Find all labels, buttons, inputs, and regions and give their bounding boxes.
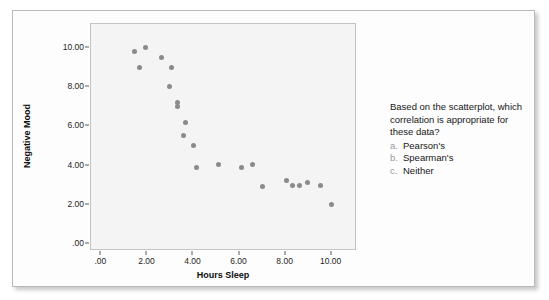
data-point [284, 178, 289, 183]
x-axis-title: Hours Sleep [197, 270, 250, 280]
x-tick-mark [192, 251, 193, 255]
y-tick-label: 6.00 [67, 120, 84, 130]
x-tick-mark [146, 251, 147, 255]
data-point [191, 143, 196, 148]
x-tick-label: 2.00 [138, 256, 155, 266]
y-tick-mark [85, 46, 89, 47]
x-tick-label: 4.00 [184, 256, 201, 266]
x-tick-mark [330, 251, 331, 255]
data-point [216, 162, 221, 167]
data-point [169, 65, 174, 70]
data-point [250, 162, 255, 167]
data-point [132, 49, 137, 54]
option-label: Pearson's [403, 140, 445, 153]
data-point [137, 65, 142, 70]
data-point [290, 183, 295, 188]
data-point [318, 183, 323, 188]
question-text: Based on the scatterplot, which correlat… [390, 101, 530, 139]
y-tick-mark [85, 85, 89, 86]
option-label: Spearman's [403, 152, 453, 165]
answer-options-list: a.Pearson'sb.Spearman'sc.Neither [390, 140, 530, 178]
y-tick-label: 10.00 [63, 42, 84, 52]
question-block: Based on the scatterplot, which correlat… [390, 101, 530, 178]
data-point [297, 183, 302, 188]
data-point [305, 180, 310, 185]
data-point [194, 165, 199, 170]
x-tick-mark [284, 251, 285, 255]
data-point [167, 84, 172, 89]
answer-option[interactable]: a.Pearson's [390, 140, 530, 153]
y-tick-label: 2.00 [67, 199, 84, 209]
answer-option[interactable]: c.Neither [390, 165, 530, 178]
plot-area [90, 23, 356, 250]
y-tick-label: 8.00 [67, 81, 84, 91]
y-tick-mark [85, 125, 89, 126]
x-tick-label: 10.00 [320, 256, 341, 266]
data-point [329, 202, 334, 207]
answer-option[interactable]: b.Spearman's [390, 152, 530, 165]
x-tick-mark [100, 251, 101, 255]
option-letter: a. [390, 140, 403, 153]
y-tick-label: 4.00 [67, 160, 84, 170]
data-point [159, 55, 164, 60]
figure-card: Negative Mood .002.004.006.008.0010.00 .… [12, 10, 535, 287]
x-tick-mark [238, 251, 239, 255]
data-point [239, 165, 244, 170]
data-point [183, 120, 188, 125]
data-point [175, 104, 180, 109]
y-tick-mark [85, 164, 89, 165]
data-point [181, 133, 186, 138]
option-letter: c. [390, 165, 403, 178]
x-tick-label: .00 [94, 256, 106, 266]
data-point [143, 45, 148, 50]
y-axis-ticks: .002.004.006.008.0010.00 [13, 11, 84, 288]
y-tick-mark [85, 243, 89, 244]
scatterplot-chart: Negative Mood .002.004.006.008.0010.00 .… [13, 11, 383, 288]
x-tick-label: 6.00 [230, 256, 247, 266]
y-tick-mark [85, 203, 89, 204]
option-label: Neither [403, 165, 434, 178]
y-tick-label: .00 [72, 238, 84, 248]
x-tick-label: 8.00 [276, 256, 293, 266]
data-point [260, 184, 265, 189]
option-letter: b. [390, 152, 403, 165]
